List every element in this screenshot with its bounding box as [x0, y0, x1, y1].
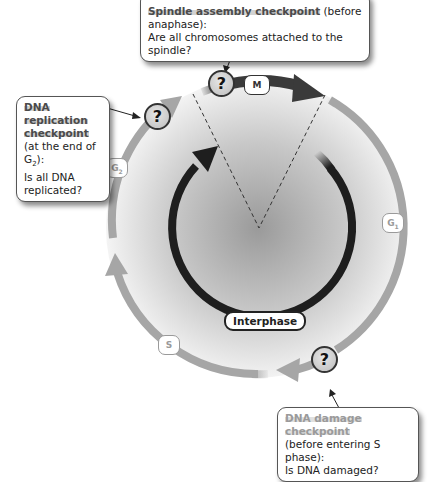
interphase-label: Interphase: [224, 311, 306, 331]
g1-base: G: [387, 218, 394, 228]
replication-checkpoint-title-2: checkpoint: [24, 127, 89, 139]
g2-base: G: [111, 163, 118, 173]
phase-label-g1: G1: [382, 213, 404, 233]
replication-question-1: Is all DNA: [24, 171, 75, 183]
spindle-checkpoint-callout: Spindle assembly checkpoint (before anap…: [140, 0, 370, 62]
spindle-checkpoint-icon[interactable]: ?: [208, 70, 235, 97]
pointer-replication: [107, 108, 135, 116]
damage-checkpoint-callout: DNA damage checkpoint (before entering S…: [277, 407, 419, 482]
damage-checkpoint-qualifier: (before entering S phase):: [285, 438, 380, 463]
spindle-checkpoint-question: Are all chromosomes attached to the spin…: [148, 31, 343, 56]
g1-sub: 1: [395, 223, 399, 230]
replication-checkpoint-title-1: DNA replication: [24, 101, 88, 126]
phase-label-s: S: [158, 335, 180, 355]
replication-checkpoint-callout: DNA replication checkpoint (at the end o…: [16, 96, 110, 202]
replication-question-2: replicated?: [24, 184, 82, 196]
damage-checkpoint-title: DNA damage checkpoint: [285, 412, 362, 437]
damage-checkpoint-icon[interactable]: ?: [311, 346, 338, 373]
pointer-replication-head: [132, 112, 141, 119]
phase-label-m: M: [244, 75, 270, 95]
replication-qualifier-post: ):: [37, 153, 45, 165]
replication-checkpoint-icon[interactable]: ?: [144, 103, 171, 130]
damage-checkpoint-question: Is DNA damaged?: [285, 464, 379, 476]
g2-sub: 2: [119, 168, 123, 175]
spindle-checkpoint-title: Spindle assembly checkpoint: [148, 5, 320, 17]
